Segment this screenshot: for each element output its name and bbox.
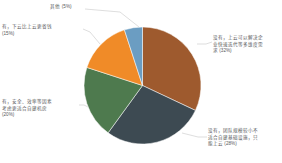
pie-chart-figure: 没有，上云可以解决企 业快速迭代等多维度需 求 (32%) 没有，团队规模较小不… xyxy=(0,0,282,163)
pie-label-other: 其他 (5%) xyxy=(38,4,84,11)
pie-label-yes-selfbuild: 有，安全、效率等因素 考虑更适合自建机房 (20%) xyxy=(2,99,80,119)
leader-line-nocloud-fast xyxy=(197,42,212,44)
pie-label-yes-cheaper: 有，下云比上云更省钱 (15%) xyxy=(2,24,82,37)
pie-label-nocloud-smallteam: 没有，团队规模较小不 适合自建基础设施，只 能上云 (28%) xyxy=(208,128,280,148)
pie-slices-group xyxy=(84,27,201,144)
leader-line-other xyxy=(85,9,139,27)
pie-label-nocloud-fast: 没有，上云可以解决企 业快速迭代等多维度需 求 (32%) xyxy=(213,35,279,55)
leader-line-nocloud-smallteam xyxy=(182,133,207,137)
leader-line-yes-cheaper xyxy=(83,29,100,44)
